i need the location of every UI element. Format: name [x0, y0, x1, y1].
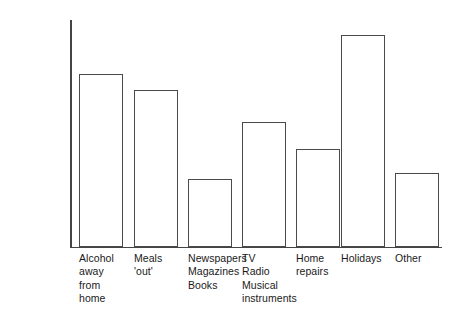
- x-axis-tick-label-group: Alcohol away from homeMeals 'out'Newspap…: [0, 252, 461, 331]
- bar-meals-out: [134, 90, 178, 247]
- x-axis-tick-label: Meals 'out': [134, 252, 186, 279]
- bar-newspapers-magazines-books: [188, 179, 232, 247]
- bar-alcohol-away-from-home: [79, 74, 123, 247]
- bar-tv-radio-musical-instruments: [242, 122, 286, 247]
- x-axis-tick-label: Holidays: [341, 252, 399, 265]
- bar-home-repairs: [296, 149, 340, 247]
- x-axis-tick-label: Alcohol away from home: [79, 252, 133, 305]
- bar-holidays: [341, 35, 385, 247]
- bar-chart: Alcohol away from homeMeals 'out'Newspap…: [0, 0, 461, 331]
- bar-other: [395, 173, 439, 247]
- x-axis-tick-label: Other: [395, 252, 443, 265]
